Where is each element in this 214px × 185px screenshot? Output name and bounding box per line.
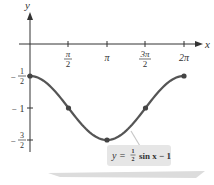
- curve-point: [143, 105, 148, 110]
- y-tick-label-neg-3-2: − 3 2: [10, 131, 26, 150]
- y-axis-arrow-icon: [27, 12, 33, 20]
- svg-text:−: −: [10, 136, 15, 146]
- svg-text:3: 3: [20, 131, 24, 140]
- svg-text:1: 1: [132, 148, 135, 154]
- x-axis-arrow-icon: [195, 41, 203, 47]
- curve-points: [27, 73, 186, 142]
- svg-text:sin x − 1: sin x − 1: [139, 151, 171, 161]
- svg-text:2: 2: [20, 141, 24, 150]
- y-tick-label-neg-1: − 1: [11, 103, 24, 114]
- svg-text:2: 2: [20, 77, 24, 86]
- x-tick-label-pi-2: π 2: [64, 49, 72, 69]
- x-tick-label-pi: π: [104, 52, 110, 63]
- svg-text:2: 2: [132, 156, 135, 162]
- svg-text:2π: 2π: [179, 52, 190, 63]
- curve-point: [181, 73, 186, 78]
- callout-equation: y = 1 2 sin x − 1: [111, 148, 171, 162]
- svg-text:y =: y =: [111, 150, 126, 161]
- curve-line: [30, 76, 184, 140]
- svg-text:π: π: [66, 49, 71, 59]
- svg-text:1: 1: [20, 103, 25, 114]
- svg-text:−: −: [11, 104, 16, 114]
- x-tick-label-3pi-2: 3π 2: [139, 49, 151, 69]
- svg-text:3π: 3π: [139, 49, 150, 59]
- axes: [19, 16, 198, 152]
- curve-point: [104, 137, 109, 142]
- svg-text:−: −: [10, 72, 15, 82]
- y-tick-label-neg-half: − 1 2: [10, 67, 26, 86]
- curve-point: [27, 73, 32, 78]
- svg-text:π: π: [104, 52, 110, 63]
- svg-text:2: 2: [143, 59, 148, 69]
- x-tick-label-2pi: 2π: [179, 52, 190, 63]
- svg-text:1: 1: [20, 67, 24, 76]
- shadow-bar: [48, 171, 205, 178]
- curve-point: [66, 105, 71, 110]
- callout-leader-line: [131, 131, 140, 146]
- y-axis-label: y: [24, 0, 30, 11]
- chart: x y π 2 π 3π 2 2π − 1 2 − 1 − 3: [0, 0, 214, 185]
- svg-text:2: 2: [66, 59, 71, 69]
- x-axis-label: x: [204, 38, 210, 50]
